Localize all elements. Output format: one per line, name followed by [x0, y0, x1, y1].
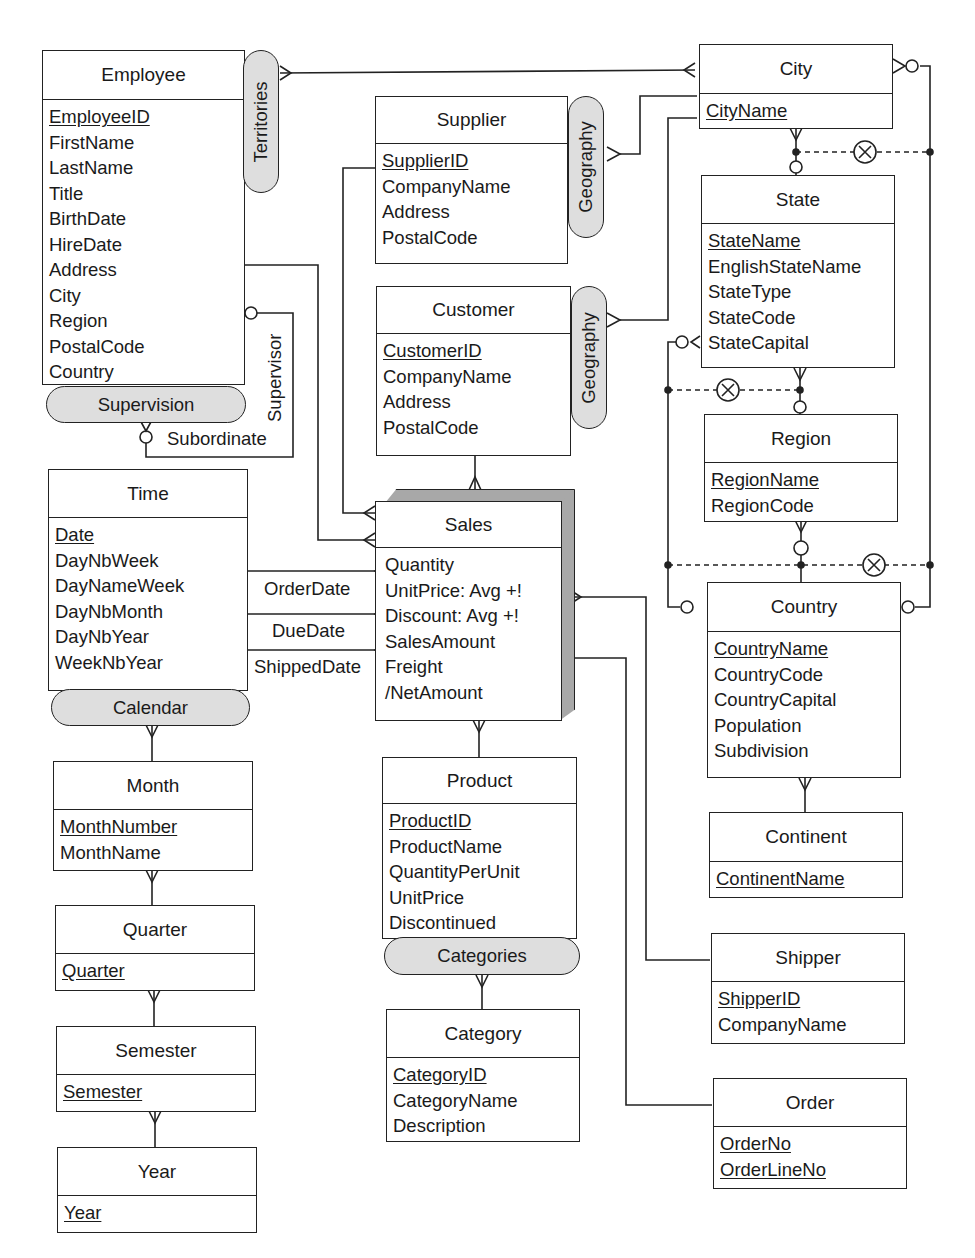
- hierarchy-geography-supplier[interactable]: Geography: [568, 96, 604, 238]
- attribute: CompanyName: [718, 1012, 898, 1038]
- primary-key: CityName: [706, 98, 886, 124]
- attribute: CompanyName: [383, 364, 564, 390]
- entity-title: Customer: [377, 287, 570, 334]
- hierarchy-categories[interactable]: Categories: [384, 937, 580, 975]
- entity-customer[interactable]: Customer CustomerID CompanyName Address …: [376, 286, 571, 456]
- attribute: Description: [393, 1113, 573, 1139]
- measure: /NetAmount: [385, 680, 555, 706]
- attribute: DayNameWeek: [55, 573, 241, 599]
- entity-title: Semester: [57, 1027, 255, 1075]
- entity-time[interactable]: Time Date DayNbWeek DayNameWeek DayNbMon…: [48, 469, 248, 691]
- measure: Freight: [385, 654, 555, 680]
- attribute: CompanyName: [382, 174, 561, 200]
- attribute: CategoryName: [393, 1088, 573, 1114]
- hierarchy-label: Calendar: [113, 697, 188, 719]
- primary-key: Year: [64, 1200, 250, 1226]
- hierarchy-calendar[interactable]: Calendar: [51, 689, 250, 726]
- entity-continent[interactable]: Continent ContinentName: [709, 812, 903, 898]
- entity-city[interactable]: City CityName: [699, 44, 893, 129]
- attribute: Subdivision: [714, 738, 894, 764]
- measure: Quantity: [385, 552, 555, 578]
- attribute: WeekNbYear: [55, 650, 241, 676]
- attribute: LastName: [49, 155, 238, 181]
- hierarchy-supervision[interactable]: Supervision: [46, 386, 246, 423]
- attribute: FirstName: [49, 130, 238, 156]
- attribute: Address: [383, 389, 564, 415]
- primary-key: MonthNumber: [60, 814, 246, 840]
- hierarchy-geography-customer[interactable]: Geography: [571, 286, 607, 429]
- role-supervisor: Supervisor: [264, 334, 286, 422]
- role-due-date: DueDate: [272, 620, 345, 642]
- role-order-date: OrderDate: [264, 578, 350, 600]
- hierarchy-label: Territories: [250, 81, 272, 162]
- attribute: StateCapital: [708, 330, 888, 356]
- entity-employee[interactable]: Employee EmployeeID FirstName LastName T…: [42, 50, 245, 385]
- primary-key: Quarter: [62, 958, 248, 984]
- primary-key: RegionName: [711, 467, 891, 493]
- primary-key: ShipperID: [718, 986, 898, 1012]
- attribute: BirthDate: [49, 206, 238, 232]
- attribute: PostalCode: [383, 415, 564, 441]
- primary-key: OrderLineNo: [720, 1157, 900, 1183]
- hierarchy-label: Geography: [575, 121, 597, 213]
- attribute: QuantityPerUnit: [389, 859, 570, 885]
- entity-shipper[interactable]: Shipper ShipperID CompanyName: [711, 933, 905, 1044]
- entity-title: City: [700, 45, 892, 94]
- attribute: MonthName: [60, 840, 246, 866]
- attribute: DayNbYear: [55, 624, 241, 650]
- primary-key: ProductID: [389, 808, 570, 834]
- entity-title: State: [702, 176, 894, 224]
- entity-title: Employee: [43, 51, 244, 100]
- primary-key: SupplierID: [382, 148, 561, 174]
- attribute: EnglishStateName: [708, 254, 888, 280]
- entity-title: Year: [58, 1148, 256, 1196]
- attribute: Discontinued: [389, 910, 570, 936]
- primary-key: ContinentName: [716, 866, 896, 892]
- entity-month[interactable]: Month MonthNumber MonthName: [53, 761, 253, 871]
- entity-region[interactable]: Region RegionName RegionCode: [704, 414, 898, 522]
- primary-key: CustomerID: [383, 338, 564, 364]
- entity-supplier[interactable]: Supplier SupplierID CompanyName Address …: [375, 96, 568, 264]
- entity-order[interactable]: Order OrderNo OrderLineNo: [713, 1078, 907, 1189]
- entity-title: Quarter: [56, 906, 254, 954]
- primary-key: StateName: [708, 228, 888, 254]
- attribute: PostalCode: [49, 334, 238, 360]
- hierarchy-label: Supervision: [98, 394, 195, 416]
- attribute: Address: [49, 257, 238, 283]
- entity-year[interactable]: Year Year: [57, 1147, 257, 1233]
- attribute: CountryCapital: [714, 687, 894, 713]
- entity-title: Country: [708, 583, 900, 632]
- hierarchy-label: Categories: [437, 945, 526, 967]
- fact-sales[interactable]: Sales Quantity UnitPrice: Avg +! Discoun…: [375, 489, 575, 721]
- hierarchy-territories[interactable]: Territories: [243, 50, 279, 193]
- entity-title: Supplier: [376, 97, 567, 144]
- entity-country[interactable]: Country CountryName CountryCode CountryC…: [707, 582, 901, 778]
- attribute: Address: [382, 199, 561, 225]
- attribute: StateCode: [708, 305, 888, 331]
- entity-title: Time: [49, 470, 247, 518]
- entity-category[interactable]: Category CategoryID CategoryName Descrip…: [386, 1009, 580, 1142]
- attribute: City: [49, 283, 238, 309]
- primary-key: Date: [55, 522, 241, 548]
- measure: SalesAmount: [385, 629, 555, 655]
- entity-title: Month: [54, 762, 252, 810]
- attribute: HireDate: [49, 232, 238, 258]
- role-subordinate: Subordinate: [167, 428, 267, 450]
- entity-product[interactable]: Product ProductID ProductName QuantityPe…: [382, 757, 577, 939]
- entity-title: Region: [705, 415, 897, 463]
- hierarchy-label: Geography: [578, 312, 600, 404]
- primary-key: CountryName: [714, 636, 894, 662]
- attribute: DayNbMonth: [55, 599, 241, 625]
- entity-title: Continent: [710, 813, 902, 862]
- attribute: PostalCode: [382, 225, 561, 251]
- entity-state[interactable]: State StateName EnglishStateName StateTy…: [701, 175, 895, 368]
- attribute: StateType: [708, 279, 888, 305]
- attribute: ProductName: [389, 834, 570, 860]
- attribute: DayNbWeek: [55, 548, 241, 574]
- role-shipped-date: ShippedDate: [254, 656, 361, 678]
- attribute: RegionCode: [711, 493, 891, 519]
- entity-title: Product: [383, 758, 576, 804]
- entity-semester[interactable]: Semester Semester: [56, 1026, 256, 1112]
- primary-key: OrderNo: [720, 1131, 900, 1157]
- entity-quarter[interactable]: Quarter Quarter: [55, 905, 255, 991]
